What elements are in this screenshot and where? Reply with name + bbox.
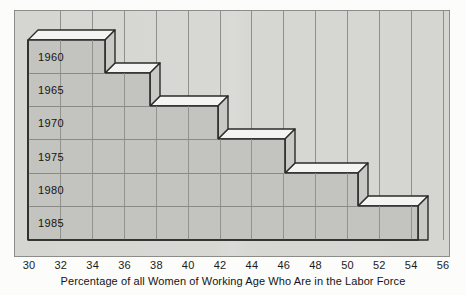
xtick-36: 36: [118, 259, 131, 271]
xtick-34: 34: [86, 259, 99, 271]
xtick-52: 52: [373, 259, 386, 271]
year-label-1985: 1985: [38, 217, 64, 229]
plot-panel: [15, 11, 449, 256]
x-axis-title: Percentage of all Women of Working Age W…: [0, 275, 466, 287]
year-label-1960: 1960: [38, 51, 64, 63]
xtick-30: 30: [23, 259, 36, 271]
xtick-38: 38: [150, 259, 163, 271]
xtick-54: 54: [405, 259, 418, 271]
xtick-48: 48: [309, 259, 322, 271]
year-label-1970: 1970: [38, 117, 64, 129]
chart-frame: [14, 10, 450, 257]
xtick-56: 56: [437, 259, 450, 271]
xtick-46: 46: [277, 259, 290, 271]
year-label-1965: 1965: [38, 84, 64, 96]
year-label-1980: 1980: [38, 184, 64, 196]
xtick-42: 42: [214, 259, 227, 271]
xtick-50: 50: [341, 259, 354, 271]
xtick-40: 40: [182, 259, 195, 271]
xtick-44: 44: [246, 259, 259, 271]
chart-figure: 1960 1965 1970 1975 1980 1985 30 32 34 3…: [0, 0, 466, 295]
xtick-32: 32: [54, 259, 67, 271]
year-label-1975: 1975: [38, 151, 64, 163]
